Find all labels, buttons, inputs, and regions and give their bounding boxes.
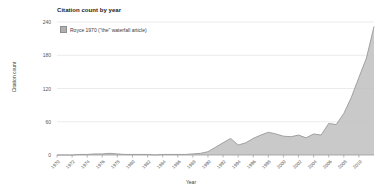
citation-chart: Citation count by year Royce 1970 ("the"… [0,0,382,196]
series-area-royce [57,26,374,155]
y-tick-label: 60 [31,119,51,125]
y-tick-label: 120 [31,86,51,92]
y-tick-label: 0 [31,152,51,158]
y-tick-label: 240 [31,19,51,25]
x-tick-marks [57,155,359,158]
gridlines [57,22,374,122]
y-tick-label: 180 [31,52,51,58]
